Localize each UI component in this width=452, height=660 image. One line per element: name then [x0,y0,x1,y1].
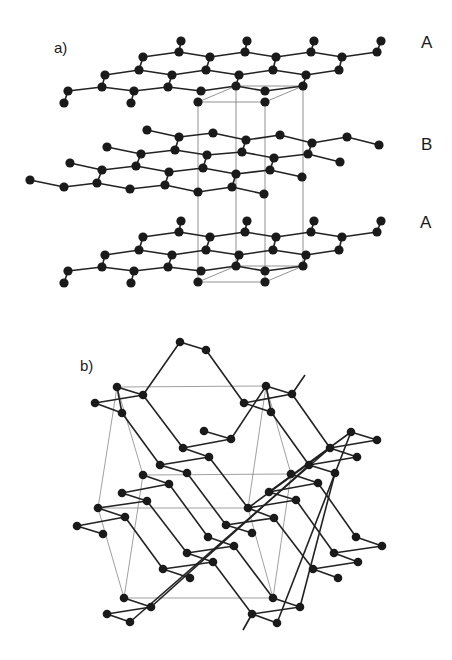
layer-label-top-a: A [421,33,432,53]
layer-label-middle-b: B [421,135,432,155]
bonds-b [77,342,382,630]
panel-a-label: a) [54,39,67,56]
layer-label-bottom-a: A [420,213,431,233]
panel-a-layered-structure [25,36,385,287]
crystal-structure-figure [0,0,452,660]
panel-b-label: b) [80,357,93,374]
panel-b-network-structure [73,338,387,630]
